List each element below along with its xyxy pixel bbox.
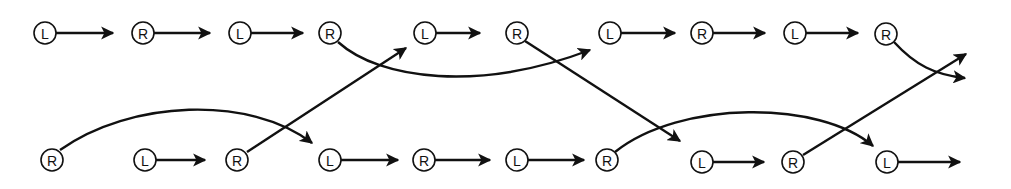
node-label: L (791, 26, 799, 42)
node-label: L (326, 153, 334, 169)
node-top-l-t7: L (599, 22, 621, 44)
node-bottom-r-b7: R (596, 149, 618, 171)
node-bottom-l-b2: L (134, 149, 156, 171)
node-top-l-t9: L (784, 22, 806, 44)
node-layer: LRLRLRLRLRRLRLRLRLRL (34, 22, 898, 173)
node-label: R (325, 26, 335, 42)
edge-layer (56, 33, 966, 162)
node-bottom-l-b6: L (506, 149, 528, 171)
node-top-r-t2: R (132, 22, 154, 44)
node-bottom-l-b10: L (876, 151, 898, 173)
node-top-r-t8: R (691, 22, 713, 44)
node-label: R (47, 153, 57, 169)
node-bottom-r-b1: R (41, 149, 63, 171)
node-label: R (697, 26, 707, 42)
node-label: L (421, 26, 429, 42)
edge-arrow-t6-to-b8 (525, 41, 680, 141)
node-label: L (236, 26, 244, 42)
node-bottom-l-b4: L (319, 149, 341, 171)
node-label: R (419, 153, 429, 169)
edge-arrow-b7-to-b10 (615, 112, 873, 152)
node-label: R (881, 27, 891, 43)
edge-arrow-b9-to-exit-right-upper (803, 54, 966, 155)
node-top-r-t4: R (319, 22, 341, 44)
node-top-l-t5: L (414, 22, 436, 44)
node-label: L (698, 155, 706, 171)
node-label: L (883, 155, 891, 171)
node-bottom-l-b8: L (691, 151, 713, 173)
node-label: L (41, 26, 49, 42)
node-top-r-t10: R (875, 23, 897, 45)
node-label: L (513, 153, 521, 169)
edge-arrow-b3-to-t5 (247, 48, 406, 152)
node-label: L (606, 26, 614, 42)
node-label: R (232, 153, 242, 169)
node-label: R (138, 26, 148, 42)
node-label: R (602, 153, 612, 169)
node-label: R (512, 26, 522, 42)
node-top-l-t1: L (34, 22, 56, 44)
node-label: L (141, 153, 149, 169)
node-top-l-t3: L (229, 22, 251, 44)
edge-arrow-b1-to-b4 (60, 110, 312, 150)
node-top-r-t6: R (506, 22, 528, 44)
node-bottom-r-b9: R (782, 151, 804, 173)
node-bottom-r-b3: R (226, 149, 248, 171)
node-bottom-r-b5: R (413, 149, 435, 171)
node-label: R (788, 155, 798, 171)
lr-alternation-diagram: LRLRLRLRLRRLRLRLRLRL (0, 0, 1011, 189)
